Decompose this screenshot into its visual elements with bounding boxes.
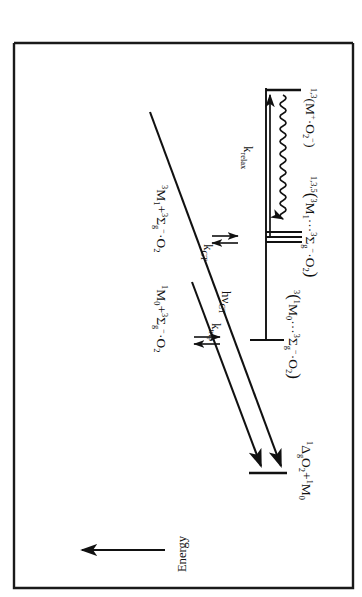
svg-text:3(1M0···3Σg−·O2): 3(1M0···3Σg−·O2): [284, 290, 304, 379]
svg-text:hνCT: hνCT: [217, 291, 234, 314]
figure-page: 1,3(M+·O2−) 1,3,5(3M1···3Σg−·O2) 3(1M0··…: [0, 0, 362, 597]
label-k-ct: kCT: [199, 244, 216, 261]
figure-frame: [14, 43, 353, 588]
column-label-complex-states: Complex States: [0, 301, 1, 381]
label-ct-ion-pair: 1,3(M+·O2−): [301, 88, 318, 147]
svg-text:3M1+3Σg−·O2: 3M1+3Σg−·O2: [152, 185, 169, 252]
rotated-figure-wrapper: 1,3(M+·O2−) 1,3,5(3M1···3Σg−·O2) 3(1M0··…: [0, 0, 362, 597]
svg-text:krelax: krelax: [239, 146, 256, 170]
label-exciplex-triplet: 1,3,5(3M1···3Σg−·O2): [301, 176, 321, 277]
svg-text:1M0+3Σg−·O2: 1M0+3Σg−·O2: [152, 285, 169, 352]
k-relax-wavy-arrow: [280, 95, 286, 219]
energy-axis-svg: Energy: [0, 520, 362, 597]
label-ground-complex: 3(1M0···3Σg−·O2): [284, 290, 304, 379]
svg-text:ktrip: ktrip: [207, 323, 224, 341]
svg-text:kCT: kCT: [199, 244, 216, 261]
label-k-relax: krelax: [239, 146, 256, 170]
svg-text:Complex States: Complex States: [0, 301, 1, 381]
label-separated-triplet: 3M1+3Σg−·O2: [152, 185, 169, 252]
label-hv-ct: hνCT: [217, 291, 234, 314]
column-label-separated-molecules-left: Separated Molecules: [0, 147, 1, 252]
energy-level-diagram-svg: 1,3(M+·O2−) 1,3,5(3M1···3Σg−·O2) 3(1M0··…: [0, 0, 362, 597]
label-k-trip: ktrip: [207, 323, 224, 341]
label-singlet-oxygen-products: 1ΔgO2+1M0: [297, 441, 314, 500]
label-separated-ground: 1M0+3Σg−·O2: [152, 285, 169, 352]
svg-text:1,3,5(3M1···3Σg−·O2): 1,3,5(3M1···3Σg−·O2): [301, 176, 321, 277]
equilibrium-arrows-triplet: [212, 236, 238, 243]
svg-text:1,3(M+·O2−): 1,3(M+·O2−): [301, 88, 318, 147]
energy-axis-label: Energy: [175, 535, 189, 572]
svg-text:1ΔgO2+1M0: 1ΔgO2+1M0: [297, 441, 314, 500]
svg-text:Separated Molecules: Separated Molecules: [0, 147, 1, 252]
level-exciplex-triplet: [266, 232, 302, 242]
energy-axis-group: Energy: [0, 520, 362, 597]
